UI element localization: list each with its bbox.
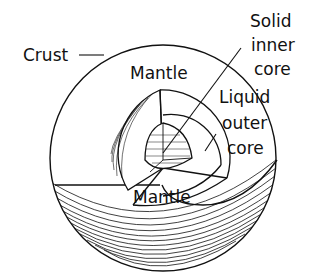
label-inner-core-line2: inner [251,36,295,54]
label-inner-core-line3: core [254,60,291,78]
lower-hemisphere-hatching [52,160,276,266]
outer-core-leader [205,134,216,151]
label-mantle-top: Mantle [130,64,188,82]
label-outer-core-line2: outer [222,114,267,132]
label-crust: Crust [23,46,68,64]
label-outer-core-line3: core [227,139,264,157]
label-outer-core-line1: Liquid [219,88,270,106]
label-inner-core-line1: Solid [250,12,291,30]
label-mantle-bottom: Mantle [133,188,191,206]
